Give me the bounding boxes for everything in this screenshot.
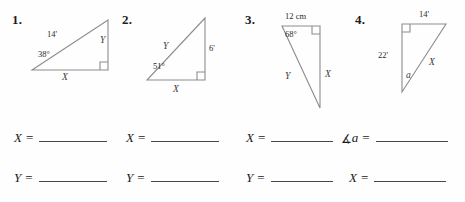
answer-equals-4-x: = (361, 170, 368, 186)
figure-4-vertical-label: 22' (378, 51, 388, 60)
problem-number-1: 1. (12, 12, 22, 28)
answer-row-4-x: X = (349, 170, 446, 186)
answer-blank-2-x[interactable] (151, 130, 219, 142)
answer-label-3-y: Y (246, 170, 253, 186)
answer-blank-2-y[interactable] (151, 170, 219, 182)
answer-blank-1-y[interactable] (39, 170, 107, 182)
problem-number-3: 3. (245, 12, 255, 28)
figure-2-base-label: X (173, 85, 179, 95)
figure-1-vertical-label: Y (100, 36, 105, 46)
answer-equals-3-x: = (258, 130, 265, 146)
answer-label-3-x: X (246, 130, 254, 146)
problem-number-4: 4. (355, 12, 365, 28)
answer-equals-1-x: = (26, 130, 33, 146)
figure-3-angle-label: 68° (285, 30, 297, 39)
answer-equals-4-angle: = (362, 130, 369, 146)
answer-row-2-y: Y = (126, 170, 219, 186)
answer-blank-4-angle[interactable] (376, 130, 448, 142)
worksheet-page: 1. 14' 38° Y X 2. Y 51° 6' X 3. 12 cm 68… (0, 0, 465, 202)
figure-1-base-label: X (62, 73, 68, 83)
answer-label-1-x: X (14, 130, 22, 146)
figure-4-angle-label: a (406, 71, 411, 81)
figure-4-top-label: 14' (419, 10, 429, 19)
answer-label-2-x: X (126, 130, 134, 146)
answer-row-3-x: X = (246, 130, 333, 146)
answer-row-4-angle: ∡ a = (341, 130, 448, 146)
answer-row-1-x: X = (14, 130, 107, 146)
figure-2-vertical-label: 6' (209, 44, 215, 53)
answer-equals-2-x: = (138, 130, 145, 146)
figure-1-hypotenuse-label: 14' (47, 30, 57, 39)
figure-3-hypotenuse-label: Y (285, 72, 290, 82)
answer-row-1-y: Y = (14, 170, 107, 186)
angle-icon: ∡ (341, 132, 352, 146)
problem-number-2: 2. (122, 12, 132, 28)
answer-blank-1-x[interactable] (39, 130, 107, 142)
figure-1-angle-label: 38° (38, 50, 50, 59)
figure-2 (143, 14, 215, 86)
answer-equals-3-y: = (257, 170, 264, 186)
answer-row-2-x: X = (126, 130, 219, 146)
answer-label-2-y: Y (126, 170, 133, 186)
figure-2-angle-label: 51° (153, 62, 165, 71)
answer-label-4-angle: a (352, 130, 359, 146)
figure-3-vertical-label: X (325, 70, 331, 80)
answer-blank-3-x[interactable] (271, 130, 333, 142)
answer-equals-1-y: = (25, 170, 32, 186)
answer-label-4-x: X (349, 170, 357, 186)
figure-4-hypotenuse-label: X (429, 58, 435, 68)
figure-3-top-label: 12 cm (285, 12, 306, 21)
answer-blank-4-x[interactable] (374, 170, 446, 182)
answer-blank-3-y[interactable] (271, 170, 333, 182)
answer-label-1-y: Y (14, 170, 21, 186)
answer-row-3-y: Y = (246, 170, 333, 186)
figure-4 (396, 18, 452, 98)
figure-2-hypotenuse-label: Y (163, 42, 168, 52)
answer-equals-2-y: = (137, 170, 144, 186)
